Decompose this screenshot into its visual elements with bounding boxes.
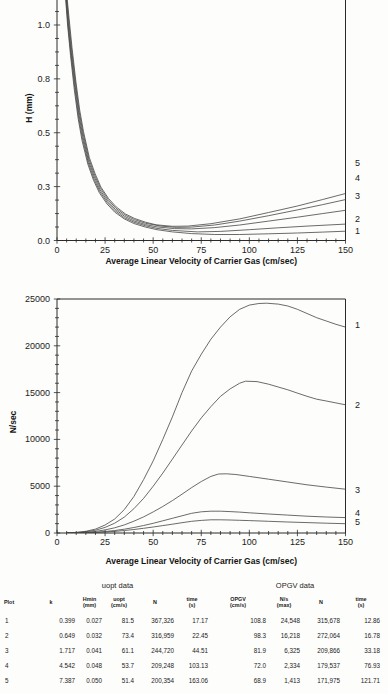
x-tick-label: 125 — [290, 245, 305, 255]
value-cell: 33.18 — [341, 647, 381, 654]
value-cell: 17.17 — [175, 617, 209, 624]
x-tick-label: 75 — [196, 537, 206, 547]
y-axis-title: N/sec — [8, 410, 18, 433]
results-table: uopt dataOPGV dataPlotkHmin(mm)uopt(cm/s… — [0, 573, 388, 694]
group-header-opgv: OPGV data — [209, 575, 381, 590]
value-cell: 73.4 — [103, 632, 135, 639]
group-header-uopt: uopt data — [26, 575, 209, 590]
value-cell: 81.9 — [209, 647, 267, 654]
column-header: Hmin(mm) — [76, 596, 103, 608]
value-cell: 163.06 — [175, 677, 209, 684]
y-tick-label: 0.0 — [37, 236, 50, 246]
x-tick-label: 100 — [242, 537, 257, 547]
series-label-5: 5 — [355, 517, 360, 527]
figure-page: 02550751001251500.00.30.50.81.012345Aver… — [0, 0, 388, 694]
value-cell: 0.399 — [26, 617, 76, 624]
ticks — [54, 299, 346, 536]
value-cell: 0.048 — [76, 662, 103, 669]
column-header: N — [301, 599, 341, 605]
value-cell: 179,537 — [301, 662, 341, 669]
value-cell: 44.51 — [175, 647, 209, 654]
y-tick-label: 0.3 — [37, 182, 50, 192]
series-label-2: 2 — [355, 214, 360, 224]
value-cell: 6,325 — [267, 647, 301, 654]
plot-number-cell: 1 — [4, 617, 26, 624]
y-tick-label: 15000 — [25, 388, 50, 398]
value-cell: 98.3 — [209, 632, 267, 639]
series-label-4: 4 — [355, 173, 360, 183]
y-tick-label: 10000 — [25, 434, 50, 444]
series-curves — [67, 303, 346, 533]
value-cell: 244,720 — [135, 647, 175, 654]
table-header-row: PlotkHmin(mm)uopt(cm/s)Ntime(s)OPGV(cm/s… — [0, 591, 388, 613]
x-tick-label: 25 — [100, 245, 110, 255]
value-cell: 0.032 — [76, 632, 103, 639]
column-header: N/s(max) — [267, 596, 301, 608]
value-cell: 16,218 — [267, 632, 301, 639]
series-label-1: 1 — [355, 320, 360, 330]
plot-number-cell: 4 — [4, 662, 26, 669]
x-tick-label: 150 — [338, 245, 353, 255]
tick-labels: 0255075100125150050001000015000200002500… — [25, 294, 353, 547]
series-curve-2 — [67, 381, 346, 533]
value-cell: 53.7 — [103, 662, 135, 669]
series-label-2: 2 — [355, 400, 360, 410]
series-curve-5 — [67, 0, 346, 226]
series-labels: 12345 — [355, 320, 360, 527]
y-tick-label: 1.0 — [37, 20, 50, 30]
value-cell: 16.78 — [341, 632, 381, 639]
value-cell: 209,248 — [135, 662, 175, 669]
y-tick-label: 20000 — [25, 341, 50, 351]
plot-number-cell: 3 — [4, 647, 26, 654]
value-cell: 1,413 — [267, 677, 301, 684]
x-tick-label: 150 — [338, 537, 353, 547]
y-tick-label: 0.8 — [37, 74, 50, 84]
value-cell: 61.1 — [103, 647, 135, 654]
value-cell: 51.4 — [103, 677, 135, 684]
value-cell: 24,548 — [267, 617, 301, 624]
column-header: N — [135, 599, 175, 605]
value-cell: 272,064 — [301, 632, 341, 639]
x-tick-label: 25 — [100, 537, 110, 547]
axes — [57, 299, 346, 533]
value-cell: 7.387 — [26, 677, 76, 684]
value-cell: 108.8 — [209, 617, 267, 624]
series-label-3: 3 — [355, 485, 360, 495]
x-tick-label: 75 — [196, 245, 206, 255]
value-cell: 209,866 — [301, 647, 341, 654]
value-cell: 1.717 — [26, 647, 76, 654]
value-cell: 12.86 — [341, 617, 381, 624]
series-curve-3 — [66, 0, 345, 229]
value-cell: 4.542 — [26, 662, 76, 669]
table-row: 44.5420.04853.7209,248103.1372.02,334179… — [0, 658, 388, 673]
y-tick-label: 0.5 — [37, 128, 50, 138]
series-labels: 12345 — [355, 158, 360, 236]
y-tick-label: 5000 — [30, 481, 50, 491]
column-header: Plot — [4, 599, 26, 605]
value-cell: 0.649 — [26, 632, 76, 639]
value-cell: 72.0 — [209, 662, 267, 669]
value-cell: 315,678 — [301, 617, 341, 624]
series-label-3: 3 — [355, 191, 360, 201]
x-tick-label: 0 — [54, 245, 59, 255]
value-cell: 0.041 — [76, 647, 103, 654]
series-curves — [66, 0, 346, 235]
series-curve-1 — [67, 303, 346, 533]
x-tick-label: 125 — [290, 537, 305, 547]
value-cell: 171,975 — [301, 677, 341, 684]
x-tick-label: 50 — [148, 537, 158, 547]
plot-number-cell: 2 — [4, 632, 26, 639]
value-cell: 316,959 — [135, 632, 175, 639]
x-axis-title: Average Linear Velocity of Carrier Gas (… — [106, 556, 298, 566]
value-cell: 22.45 — [175, 632, 209, 639]
table-row: 20.6490.03273.4316,95922.4598.316,218272… — [0, 628, 388, 643]
table-group-header-row: uopt dataOPGV data — [0, 573, 388, 591]
value-cell: 81.5 — [103, 617, 135, 624]
table-row: 10.3990.02781.5367,32617.17108.824,54831… — [0, 613, 388, 628]
value-cell: 367,326 — [135, 617, 175, 624]
value-cell: 76.93 — [341, 662, 381, 669]
table-row: 57.3870.05051.4200,354163.0668.91,413171… — [0, 673, 388, 688]
column-header: uopt(cm/s) — [103, 596, 135, 608]
series-label-5: 5 — [355, 158, 360, 168]
y-tick-label: 0 — [45, 528, 50, 538]
